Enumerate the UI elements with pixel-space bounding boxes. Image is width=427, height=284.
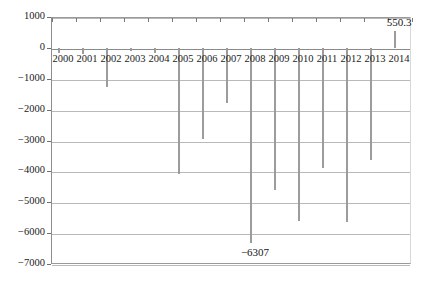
y-axis-tick-label: 1000 bbox=[1, 11, 45, 21]
y-axis-tick-label: 0 bbox=[1, 42, 45, 52]
bar-2012 bbox=[346, 48, 348, 222]
gridline bbox=[52, 265, 410, 266]
y-axis-tick-label: −5000 bbox=[1, 196, 45, 206]
data-label-2014: 550.3 bbox=[369, 16, 427, 28]
bar-2005 bbox=[178, 48, 180, 175]
bar-2008 bbox=[250, 48, 252, 243]
bar-2014 bbox=[394, 31, 396, 48]
bar-2011 bbox=[322, 48, 324, 168]
bar-2010 bbox=[298, 48, 300, 222]
y-axis-tick-label: −3000 bbox=[1, 135, 45, 145]
bar-2003 bbox=[130, 48, 132, 51]
bar-2009 bbox=[274, 48, 276, 190]
data-label-2008: −6307 bbox=[225, 246, 285, 258]
y-axis-tick-label: −4000 bbox=[1, 165, 45, 175]
y-axis-tick-label: −2000 bbox=[1, 104, 45, 114]
y-axis-tick-label: −6000 bbox=[1, 227, 45, 237]
y-axis-tick-mark bbox=[47, 264, 51, 265]
bar-2013 bbox=[370, 48, 372, 160]
bar-chart: 10000−1000−2000−3000−4000−5000−6000−7000… bbox=[0, 0, 427, 284]
x-axis-label-2014: 2014 bbox=[384, 53, 414, 64]
y-axis-tick-label: −1000 bbox=[1, 73, 45, 83]
y-axis-tick-label: −7000 bbox=[1, 258, 45, 268]
